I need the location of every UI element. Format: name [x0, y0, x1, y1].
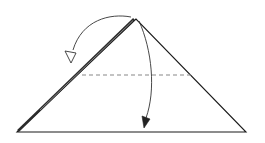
- origami-diagram: [0, 0, 265, 143]
- fold-back-arrowhead-icon: [65, 51, 76, 63]
- diagram-svg: [0, 0, 265, 143]
